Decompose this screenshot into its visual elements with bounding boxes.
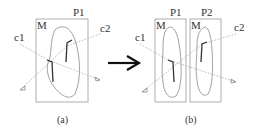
arrowhead-icon xyxy=(142,88,147,92)
caption-b: (b) xyxy=(185,114,197,126)
panel-b: P1 P2 M M c1 c2 (b) xyxy=(135,6,244,126)
cut-c2-line-ext xyxy=(142,44,202,92)
label-c2: c2 xyxy=(100,22,110,34)
label-m: M xyxy=(37,19,47,31)
label-p2: P2 xyxy=(201,6,213,18)
cut-c2-line-ext xyxy=(20,46,67,90)
figure: P1 M c1 c2 (a) P1 xyxy=(0,0,256,132)
partition-box-p2 xyxy=(190,19,221,102)
label-m-p2: M xyxy=(191,19,201,31)
panel-a: P1 M c1 c2 (a) xyxy=(14,6,110,126)
label-c1: c1 xyxy=(14,31,24,43)
cut-c1-line-ext xyxy=(48,60,100,80)
label-p1: P1 xyxy=(170,6,182,18)
cut-c1-line xyxy=(140,44,168,60)
mesh-outline-p2 xyxy=(196,27,212,95)
label-c1: c1 xyxy=(135,31,145,43)
cut-c1-line xyxy=(20,44,48,60)
cut-segment-c2 xyxy=(66,40,72,62)
label-c2: c2 xyxy=(234,21,244,33)
mesh-outline-p1 xyxy=(162,27,181,97)
diagram-canvas: P1 M c1 c2 (a) P1 xyxy=(0,0,256,132)
caption-a: (a) xyxy=(57,114,68,126)
arrowhead-icon xyxy=(20,86,25,90)
partition-box-p1 xyxy=(36,19,88,102)
right-arrow-icon xyxy=(108,56,139,70)
cut-segment-c1 xyxy=(168,60,174,82)
label-m-p1: M xyxy=(156,19,166,31)
arrowhead-icon xyxy=(95,77,100,81)
label-p1: P1 xyxy=(73,6,85,18)
cut-segment-c2 xyxy=(201,42,207,62)
arrowhead-icon xyxy=(231,79,236,83)
